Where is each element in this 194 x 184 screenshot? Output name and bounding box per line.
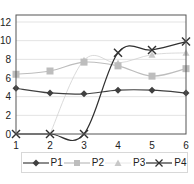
triangle-marker-icon — [105, 158, 131, 168]
chart-legend: P1 P2 P3 P4 — [21, 152, 188, 173]
x-tick-label: 3 — [81, 140, 87, 150]
data-point — [81, 59, 88, 66]
series-p2 — [13, 59, 190, 80]
x-tick-label: 1 — [13, 140, 19, 150]
legend-label: P2 — [92, 157, 104, 168]
line-chart: 024681012 123456 — [0, 0, 194, 150]
data-point — [47, 89, 54, 96]
data-point — [114, 49, 122, 57]
y-tick-label: 0 — [5, 129, 11, 140]
y-tick-label: 2 — [5, 110, 11, 121]
legend-item-p4: P4 — [146, 157, 186, 168]
diamond-marker-icon — [23, 158, 49, 168]
data-point — [149, 87, 156, 94]
x-tick-label: 6 — [183, 140, 189, 150]
x-tick-label: 2 — [47, 140, 53, 150]
legend-label: P1 — [51, 157, 63, 168]
plot-frame — [16, 15, 186, 134]
y-tick-label: 10 — [0, 35, 11, 46]
x-tick-label: 5 — [149, 140, 155, 150]
y-tick-label: 6 — [5, 73, 11, 84]
x-axis-ticks: 123456 — [13, 140, 189, 150]
legend-item-p2: P2 — [64, 157, 104, 168]
legend-item-p1: P1 — [23, 157, 63, 168]
square-marker-icon — [64, 158, 90, 168]
data-point — [149, 73, 156, 80]
data-point — [47, 68, 54, 75]
series-p4 — [12, 38, 190, 141]
y-axis-ticks: 024681012 — [0, 17, 11, 140]
legend-label: P4 — [174, 157, 186, 168]
x-tick-label: 4 — [115, 140, 121, 150]
series-lines — [12, 38, 190, 141]
legend-item-p3: P3 — [105, 157, 145, 168]
data-point — [115, 62, 122, 69]
legend-label: P3 — [133, 157, 145, 168]
y-tick-label: 8 — [5, 54, 11, 65]
gridlines — [16, 22, 186, 115]
y-tick-label: 12 — [0, 17, 11, 28]
x-marker-icon — [146, 158, 172, 168]
data-point — [115, 87, 122, 94]
y-tick-label: 4 — [5, 91, 11, 102]
